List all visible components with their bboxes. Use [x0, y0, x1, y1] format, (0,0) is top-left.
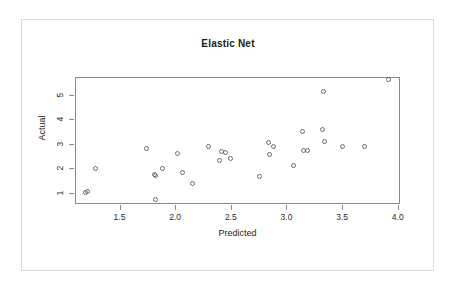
y-axis-tick — [69, 168, 74, 169]
y-axis-tick-label: 3 — [55, 137, 65, 151]
x-axis-tick-label: 4.0 — [383, 212, 413, 222]
y-axis-tick — [69, 95, 74, 96]
plot-screenshot: Elastic Net 1.52.02.53.03.54.012345 Pred… — [0, 0, 456, 290]
x-axis-tick-label: 2.5 — [216, 212, 246, 222]
page-title: Elastic Net — [0, 38, 456, 49]
plot-area — [75, 77, 400, 204]
x-axis-tick-label: 3.0 — [271, 212, 301, 222]
x-axis-tick — [286, 205, 287, 210]
x-axis-tick-label: 3.5 — [327, 212, 357, 222]
y-axis-tick — [69, 144, 74, 145]
y-axis-tick-label: 1 — [55, 186, 65, 200]
x-axis-tick — [175, 205, 176, 210]
x-axis-tick — [398, 205, 399, 210]
y-axis-tick — [69, 193, 74, 194]
x-axis-tick-label: 1.5 — [105, 212, 135, 222]
y-axis-label: Actual — [37, 108, 47, 148]
x-axis-tick — [231, 205, 232, 210]
y-axis-tick-label: 2 — [55, 161, 65, 175]
y-axis-tick-label: 4 — [55, 112, 65, 126]
x-axis-tick-label: 2.0 — [160, 212, 190, 222]
y-axis-tick — [69, 119, 74, 120]
x-axis-tick — [120, 205, 121, 210]
x-axis-tick — [342, 205, 343, 210]
y-axis-tick-label: 5 — [55, 88, 65, 102]
x-axis-label: Predicted — [75, 228, 400, 238]
